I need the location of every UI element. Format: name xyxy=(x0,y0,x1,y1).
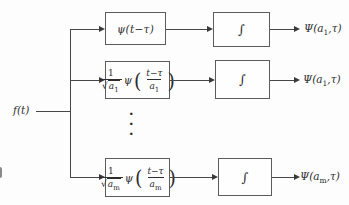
open-paren-3: ( xyxy=(135,167,142,188)
filter-expression-1: ψ(t−τ) xyxy=(117,23,154,35)
coefficient-denominator-3: √am xyxy=(99,177,123,190)
scale-subscript-2: 1 xyxy=(114,86,118,94)
integral-symbol-2: ∫ xyxy=(239,73,246,86)
filter-box-2: 1 √a1 ψ ( t−τ a1 ) xyxy=(105,61,170,99)
integrator-box-1: ∫ xyxy=(213,12,270,47)
branch-line-2 xyxy=(70,80,99,81)
output-label-3-post: ,τ) xyxy=(327,170,340,182)
output-label-1: Ψ(a1,τ) xyxy=(304,22,342,34)
radical-sign-2: √ xyxy=(102,81,108,91)
filter-box-3: 1 √am ψ ( t−τ am ) xyxy=(105,158,170,197)
argument-numerator-2: t−τ xyxy=(143,68,165,79)
integrator-box-3: ∫ xyxy=(218,158,272,196)
filter-box-1: ψ(t−τ) xyxy=(105,12,166,45)
integrator-box-2: ∫ xyxy=(215,60,270,99)
output-label-2: Ψ(a1,τ) xyxy=(303,73,341,85)
radical-sign-3: √ xyxy=(101,179,107,189)
output-label-3-pre: Ψ(a xyxy=(300,170,320,182)
coefficient-denominator-2: √a1 xyxy=(100,79,122,92)
output-label-1-pre: Ψ(a xyxy=(304,22,324,34)
output-line-2 xyxy=(270,80,294,81)
arrowhead-output-2 xyxy=(294,77,300,83)
argument-fraction-3: t−τ am xyxy=(144,166,166,190)
coefficient-fraction-2: 1 √a1 xyxy=(100,68,122,92)
output-line-1 xyxy=(270,29,294,30)
wavelet-filter-bank-diagram: f(t) ψ(t−τ) ∫ Ψ(a1,τ) 1 √a1 ψ ( t−τ a1 ) xyxy=(0,0,349,205)
branch-line-3 xyxy=(70,177,99,178)
psi-symbol-2: ψ xyxy=(124,74,132,86)
scale-subscript-3: m xyxy=(113,183,120,191)
argument-numerator-3: t−τ xyxy=(144,166,166,177)
argument-den-subscript-2: 1 xyxy=(155,86,159,94)
argument-denominator-2: a1 xyxy=(147,79,161,92)
integral-symbol-3: ∫ xyxy=(242,171,249,184)
output-line-3 xyxy=(272,177,294,178)
coefficient-numerator-3: 1 xyxy=(105,166,117,177)
coefficient-fraction-3: 1 √am xyxy=(99,166,123,190)
argument-den-subscript-3: m xyxy=(155,183,162,191)
input-signal-label: f(t) xyxy=(13,104,29,116)
output-label-3-subscript: m xyxy=(320,176,327,185)
output-label-1-post: ,τ) xyxy=(328,22,341,34)
vertical-ellipsis: · · · xyxy=(129,112,134,136)
open-paren-2: ( xyxy=(134,70,141,91)
radical-argument-2: a1 xyxy=(108,80,120,91)
connector-line-2 xyxy=(170,80,209,81)
input-line xyxy=(36,111,70,112)
output-label-3: Ψ(am,τ) xyxy=(300,170,340,182)
filter-expression-3: 1 √am ψ ( t−τ am ) xyxy=(99,166,176,190)
output-label-2-pre: Ψ(a xyxy=(303,73,323,85)
argument-denominator-3: am xyxy=(148,177,164,190)
coefficient-numerator-2: 1 xyxy=(105,68,117,79)
psi-symbol-3: ψ xyxy=(125,172,133,184)
argument-fraction-2: t−τ a1 xyxy=(143,68,165,92)
connector-line-3 xyxy=(170,177,212,178)
left-edge-artifact xyxy=(0,167,2,178)
arrowhead-output-1 xyxy=(294,26,300,32)
output-label-2-post: ,τ) xyxy=(327,73,340,85)
integral-symbol-1: ∫ xyxy=(238,23,245,36)
bus-line xyxy=(70,29,71,178)
connector-line-1 xyxy=(166,29,207,30)
ellipsis-dot: · xyxy=(129,132,134,136)
branch-line-1 xyxy=(70,29,99,30)
radical-argument-3: am xyxy=(107,178,121,189)
filter-expression-2: 1 √a1 ψ ( t−τ a1 ) xyxy=(100,68,175,92)
